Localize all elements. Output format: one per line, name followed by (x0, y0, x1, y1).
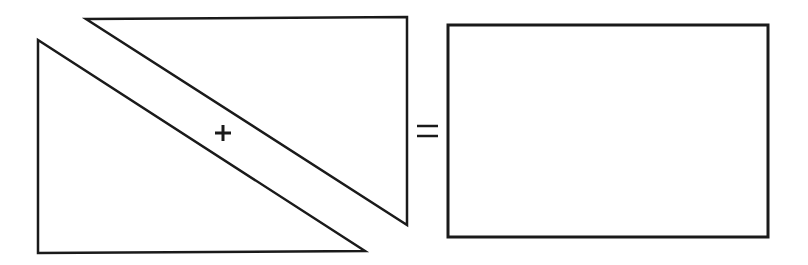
equals-icon (417, 126, 438, 136)
diagram-canvas (0, 0, 808, 265)
triangles-to-rectangle-diagram (0, 0, 808, 265)
lower-triangle (38, 40, 365, 253)
result-rectangle (448, 25, 768, 237)
plus-icon (215, 125, 231, 141)
upper-triangle (86, 17, 407, 225)
